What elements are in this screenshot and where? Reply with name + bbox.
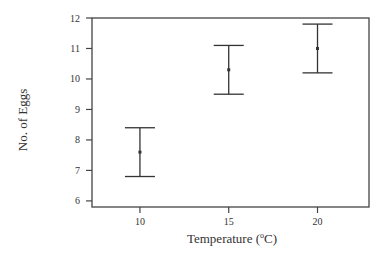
chart-canvas: 6789101112 101520 No. of Eggs Temperatur…	[0, 0, 384, 256]
plot-frame	[92, 18, 369, 207]
mean-marker	[227, 68, 230, 71]
y-tick-label: 10	[70, 73, 80, 84]
y-tick-label: 8	[75, 134, 80, 145]
x-tick-label: 20	[313, 216, 323, 227]
x-axis-ticks: 101520	[135, 207, 323, 227]
error-bar	[125, 128, 155, 177]
x-tick-label: 10	[135, 216, 145, 227]
x-axis-label-prefix: Temperature (	[187, 231, 260, 246]
y-axis-ticks: 6789101112	[70, 13, 92, 207]
y-tick-label: 11	[70, 43, 80, 54]
y-tick-label: 7	[75, 165, 80, 176]
y-tick-label: 6	[75, 195, 80, 206]
mean-marker	[138, 151, 141, 154]
mean-marker	[316, 47, 319, 50]
x-axis-label-suffix: C)	[264, 231, 277, 246]
y-tick-label: 12	[70, 13, 80, 24]
y-tick-label: 9	[75, 104, 80, 115]
x-tick-label: 15	[224, 216, 234, 227]
x-axis-label: Temperature (oC)	[187, 231, 277, 246]
y-axis-label: No. of Eggs	[15, 89, 30, 151]
error-bar	[303, 24, 333, 73]
error-bars	[125, 24, 333, 176]
error-bar	[214, 45, 244, 94]
error-bar-chart: 6789101112 101520 No. of Eggs Temperatur…	[0, 0, 384, 256]
